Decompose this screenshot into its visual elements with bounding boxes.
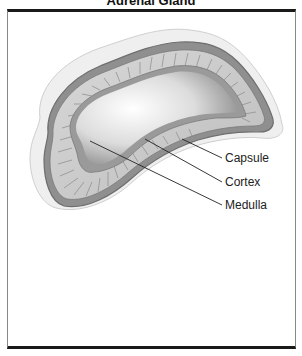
label-capsule: Capsule [225, 151, 269, 165]
label-cortex: Cortex [225, 175, 260, 189]
label-medulla: Medulla [225, 198, 267, 212]
